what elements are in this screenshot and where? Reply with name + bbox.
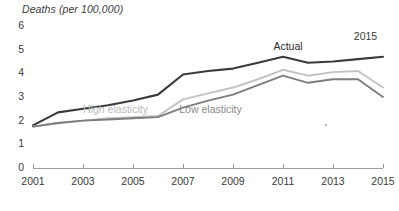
x-tick-label-2003: 2003 — [61, 175, 105, 187]
y-tick-label-4: 4 — [8, 66, 24, 78]
series-lines — [33, 57, 383, 127]
y-tick-label-3: 3 — [8, 90, 24, 102]
image-speck — [325, 124, 327, 126]
y-tick-label-1: 1 — [8, 137, 24, 149]
series-label-high-elasticity: High elasticity — [83, 103, 148, 115]
series-line-actual — [33, 57, 383, 126]
annotation-2015: 2015 — [354, 30, 377, 42]
x-tick-label-2001: 2001 — [11, 175, 55, 187]
x-tick-label-2011: 2011 — [261, 175, 305, 187]
x-tick-label-2009: 2009 — [211, 175, 255, 187]
y-tick-label-5: 5 — [8, 43, 24, 55]
series-line-high-elasticity — [33, 70, 383, 127]
series-label-actual: Actual — [273, 40, 302, 52]
x-tick-label-2015: 2015 — [361, 175, 399, 187]
y-tick-label-2: 2 — [8, 114, 24, 126]
series-line-low-elasticity — [33, 76, 383, 127]
series-label-low-elasticity: Low elasticity — [179, 103, 241, 115]
axis-ticks — [33, 164, 383, 168]
y-tick-label-6: 6 — [8, 19, 24, 31]
x-tick-label-2013: 2013 — [311, 175, 355, 187]
x-tick-label-2005: 2005 — [111, 175, 155, 187]
y-tick-label-0: 0 — [8, 161, 24, 173]
x-tick-label-2007: 2007 — [161, 175, 205, 187]
